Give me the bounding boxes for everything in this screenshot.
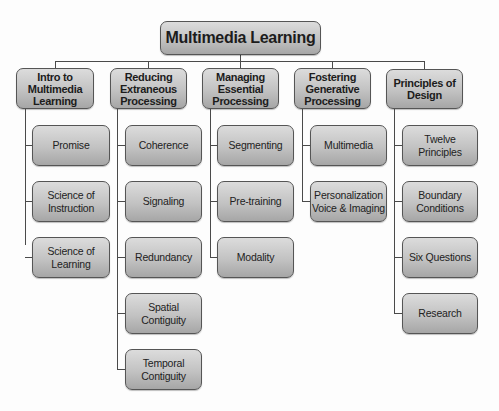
node-personalization: Personalization Voice & Imaging (310, 181, 387, 222)
node-research: Research (402, 293, 478, 334)
tick (394, 145, 402, 146)
node-pre-training: Pre-training (217, 181, 294, 222)
category-reducing-extraneous: Reducing Extraneous Processing (110, 68, 187, 109)
tick (210, 257, 217, 258)
branch-line-managing (210, 109, 211, 257)
tick (117, 369, 125, 370)
node-spatial-contiguity: Spatial Contiguity (125, 293, 202, 334)
tick (302, 201, 310, 202)
connector-root-drop (240, 54, 241, 61)
category-intro: Intro to Multimedia Learning (16, 68, 94, 109)
category-managing-essential: Managing Essential Processing (202, 68, 279, 109)
node-multimedia: Multimedia (310, 125, 387, 166)
node-redundancy: Redundancy (125, 237, 202, 278)
tick (394, 201, 402, 202)
node-twelve-principles: Twelve Principles (402, 125, 478, 166)
tick (117, 145, 125, 146)
tick (117, 201, 125, 202)
node-science-of-learning: Science of Learning (32, 237, 110, 278)
connector-drop-1 (55, 61, 56, 68)
diagram-canvas: Multimedia Learning Intro to Multimedia … (0, 0, 499, 411)
tick (394, 257, 402, 258)
tick (394, 313, 402, 314)
branch-line-fostering (302, 109, 303, 201)
node-promise: Promise (32, 125, 110, 166)
connector-drop-5 (424, 61, 425, 69)
node-science-of-instruction: Science of Instruction (32, 181, 110, 222)
node-signaling: Signaling (125, 181, 202, 222)
category-principles-of-design: Principles of Design (386, 69, 463, 109)
tick (210, 201, 217, 202)
node-modality: Modality (217, 237, 294, 278)
node-boundary-conditions: Boundary Conditions (402, 181, 478, 222)
connector-drop-4 (332, 61, 333, 68)
node-segmenting: Segmenting (217, 125, 294, 166)
branch-line-intro (25, 109, 26, 245)
tick (302, 145, 310, 146)
tick (25, 201, 32, 202)
tick (210, 145, 217, 146)
node-coherence: Coherence (125, 125, 202, 166)
connector-drop-2 (148, 61, 149, 68)
tick (117, 313, 125, 314)
connector-drop-3 (240, 61, 241, 68)
tick (25, 257, 32, 258)
tick (25, 145, 32, 146)
branch-line-design (394, 109, 395, 313)
node-temporal-contiguity: Temporal Contiguity (125, 349, 202, 390)
branch-line-reducing (117, 109, 118, 369)
root-node: Multimedia Learning (160, 21, 321, 55)
node-six-questions: Six Questions (402, 237, 478, 278)
category-fostering-generative: Fostering Generative Processing (294, 68, 371, 109)
tick (117, 257, 125, 258)
